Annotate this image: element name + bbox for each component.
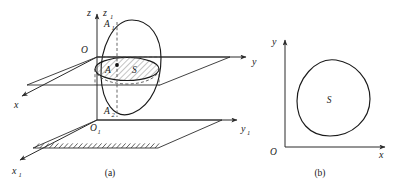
caption-panel-a: (a) bbox=[105, 168, 116, 179]
caption-panel-b: (b) bbox=[314, 168, 325, 179]
z-axis-label: z bbox=[86, 7, 91, 18]
point-A-marker bbox=[115, 63, 119, 67]
y-axis-label: y bbox=[251, 56, 257, 67]
point-A1-label-subscript: 1 bbox=[112, 24, 115, 31]
z1-axis-label: z bbox=[102, 7, 107, 18]
figure-root: z z 1 y y 1 x x 1 O O 1 A 1 A A 2 S (a) bbox=[0, 0, 398, 192]
point-A1-label: A bbox=[103, 19, 110, 29]
y1-axis-label: y bbox=[240, 123, 246, 134]
figure-background bbox=[0, 0, 398, 192]
z1-axis-label-subscript: 1 bbox=[110, 13, 113, 20]
point-A2-label: A bbox=[103, 106, 110, 116]
panel-b-origin-O-label: O bbox=[270, 147, 277, 157]
region-S-label-panel-a: S bbox=[132, 65, 137, 75]
point-A-label: A bbox=[104, 65, 111, 75]
panel-b-y-axis-label: y bbox=[271, 36, 277, 47]
region-S-label-panel-b: S bbox=[327, 95, 332, 105]
x1-axis-label-subscript: 1 bbox=[19, 171, 22, 178]
geometry-figure: z z 1 y y 1 x x 1 O O 1 A 1 A A 2 S (a) bbox=[0, 0, 398, 192]
origin-O1-label: O bbox=[90, 123, 97, 133]
origin-O1-label-subscript: 1 bbox=[98, 128, 101, 135]
x1-axis-label: x bbox=[11, 165, 17, 176]
y1-axis-label-subscript: 1 bbox=[247, 129, 250, 136]
x-axis-label: x bbox=[13, 99, 19, 110]
origin-O-label: O bbox=[81, 45, 88, 55]
panel-b-x-axis-label: x bbox=[378, 149, 384, 160]
